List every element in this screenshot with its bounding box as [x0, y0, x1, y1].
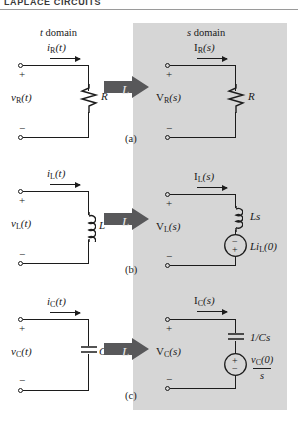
t-wire-bottom-c: [23, 390, 88, 391]
t-capacitor-symbol-c: [79, 344, 99, 356]
t-voltage-label-b: vL(t): [11, 217, 31, 231]
s-plus-a: +: [166, 69, 172, 80]
page-header-title: LAPLACE CIRCUITS: [4, 0, 101, 5]
s-current-label-c: IC(s): [194, 294, 215, 308]
s-wire-right-lower-c: [235, 375, 236, 389]
t-minus-b: −: [19, 249, 25, 260]
s-plus-c: +: [166, 323, 172, 334]
s-voltage-label-a: VR(s): [156, 91, 181, 105]
s-wire-right-lower-b: [235, 256, 236, 266]
s-source-denominator-c: s: [251, 370, 273, 381]
t-wire-right-upper-c: [88, 319, 89, 346]
s-terminal-bottom-b: [165, 263, 170, 268]
s-wire-top-a: [170, 65, 235, 66]
t-current-arrow-a: [50, 58, 80, 59]
s-current-label-a: IR(s): [194, 41, 215, 55]
s-source-numerator-c: vC(0): [251, 354, 273, 367]
s-resistor-symbol-a: [226, 84, 246, 114]
t-wire-top-c: [23, 319, 88, 320]
s-source-fraction-bar-c: [253, 368, 271, 369]
t-current-arrow-b: [50, 184, 80, 185]
s-minus-a: −: [166, 123, 172, 134]
t-plus-a: +: [19, 69, 25, 80]
t-current-label-b: iL(t): [47, 167, 65, 181]
s-source-label-b: LiL(0): [250, 240, 277, 254]
s-resistor-value-a: R: [248, 90, 255, 102]
t-domain-heading: t domain: [40, 27, 77, 38]
caption-a: (a): [125, 133, 137, 144]
t-current-label-c: iC(t): [47, 295, 66, 309]
t-wire-right-lower-a: [88, 112, 89, 138]
laplace-symbol-c: L: [122, 344, 129, 360]
t-voltage-label-c: vC(t): [11, 345, 32, 359]
s-minus-c: −: [166, 374, 172, 385]
s-wire-right-lower-a: [235, 112, 236, 138]
s-inductor-value-b: Ls: [250, 210, 260, 222]
s-voltage-label-b: VL(s): [156, 220, 180, 234]
s-source-bottom-sign-c: −: [232, 364, 238, 374]
s-voltage-label-c: VC(s): [156, 345, 181, 359]
laplace-symbol-a: L: [122, 82, 129, 98]
t-plus-c: +: [19, 323, 25, 334]
s-terminal-bottom-c: [165, 386, 170, 391]
t-wire-top-b: [23, 191, 88, 192]
s-terminal-bottom-a: [165, 135, 170, 140]
t-terminal-bottom-b: [18, 261, 23, 266]
s-wire-bottom-b: [170, 265, 235, 266]
t-terminal-bottom-c: [18, 388, 23, 393]
caption-c: (c): [125, 390, 137, 401]
s-wire-top-b: [170, 194, 235, 195]
s-current-label-b: IL(s): [194, 170, 214, 184]
t-wire-bottom-b: [23, 263, 88, 264]
s-wire-bottom-a: [170, 137, 235, 138]
t-resistor-symbol-a: [79, 84, 99, 114]
laplace-symbol-b: L: [122, 214, 129, 230]
t-terminal-bottom-a: [18, 135, 23, 140]
t-wire-top-a: [23, 65, 88, 66]
t-minus-a: −: [19, 123, 25, 134]
s-capacitor-value-c: 1/Cs: [250, 331, 270, 343]
s-wire-bottom-c: [170, 388, 235, 389]
t-current-arrow-c: [50, 312, 80, 313]
s-plus-b: +: [166, 198, 172, 209]
s-current-arrow-b: [197, 187, 227, 188]
s-capacitor-symbol-c: [226, 331, 246, 343]
s-current-arrow-a: [197, 58, 227, 59]
t-wire-bottom-a: [23, 137, 88, 138]
t-inductor-symbol-b: [82, 212, 96, 242]
s-minus-b: −: [166, 251, 172, 262]
caption-b: (b): [125, 264, 137, 275]
s-current-arrow-c: [197, 311, 227, 312]
t-plus-b: +: [19, 195, 25, 206]
laplace-circuit-figure: LAPLACE CIRCUITS t domain s domain iR(t)…: [0, 0, 298, 427]
s-wire-top-c: [170, 319, 235, 320]
s-source-bottom-sign-b: +: [232, 245, 238, 255]
s-source-fraction-c: vC(0) s: [251, 354, 273, 381]
t-minus-c: −: [19, 375, 25, 386]
t-voltage-label-a: vR(t): [11, 91, 32, 105]
header-rule: [0, 9, 298, 10]
t-wire-right-lower-b: [88, 240, 89, 264]
s-inductor-symbol-b: [229, 206, 243, 232]
t-wire-right-lower-c: [88, 354, 89, 391]
t-current-label-a: iR(t): [47, 41, 66, 55]
s-domain-heading: s domain: [187, 27, 225, 38]
